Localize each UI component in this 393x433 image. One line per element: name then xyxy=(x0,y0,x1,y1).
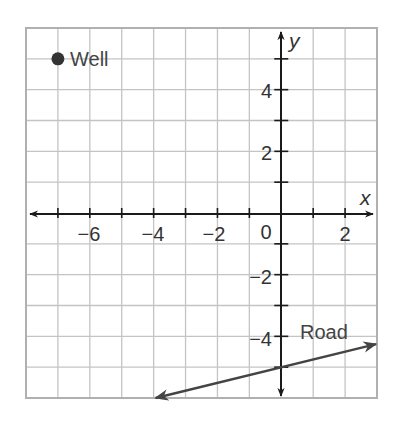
x-tick-label: −6 xyxy=(78,223,101,245)
y-tick-label: 2 xyxy=(261,142,272,164)
x-axis-label: x xyxy=(359,186,372,209)
y-axis-label: y xyxy=(287,29,301,52)
well-label: Well xyxy=(70,48,109,70)
coordinate-plane: x y −6 −4 −2 0 2 4 2 −2 −4 Road Well xyxy=(0,0,393,433)
x-tick-label: −4 xyxy=(142,223,165,245)
x-tick-label: 2 xyxy=(339,223,350,245)
x-tick-label: −2 xyxy=(203,223,226,245)
origin-label: 0 xyxy=(260,221,271,243)
road-line xyxy=(156,344,376,398)
y-tick-label: −4 xyxy=(249,328,272,350)
y-tick-label: −2 xyxy=(249,266,272,288)
well-point xyxy=(51,52,64,65)
y-tick-label: 4 xyxy=(261,80,272,102)
road-label: Road xyxy=(300,321,348,343)
